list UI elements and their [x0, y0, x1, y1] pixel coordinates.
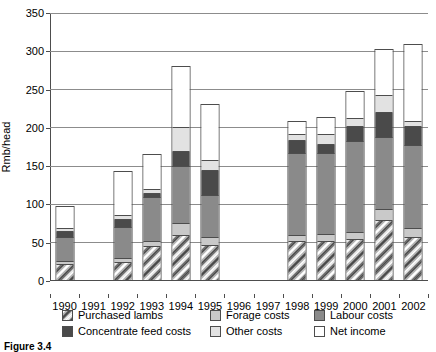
legend-label: Purchased lambs — [78, 310, 163, 321]
bar-segment — [376, 210, 393, 221]
bar-segment — [114, 263, 131, 280]
y-tick-mark — [46, 281, 50, 282]
bar-slot-1997 — [254, 13, 283, 281]
bar-segment — [289, 141, 306, 154]
bar-slot-1994 — [166, 13, 195, 281]
legend-swatch-other-icon — [210, 326, 221, 337]
chart-plot-area: 050100150200250300350 Rmb/head 199019911… — [50, 13, 428, 281]
bar-slot-2002 — [399, 13, 428, 281]
stacked-bar-1993[interactable] — [142, 154, 161, 281]
x-tick-mark — [137, 294, 138, 298]
legend-label: Concentrate feed costs — [78, 326, 191, 337]
bar-slot-1995 — [195, 13, 224, 281]
bar-slot-1999 — [312, 13, 341, 281]
stacked-bar-1990[interactable] — [55, 206, 74, 281]
stacked-bar-1998[interactable] — [288, 121, 307, 282]
y-tick-label: 50 — [32, 237, 44, 248]
x-tick-mark — [79, 294, 80, 298]
bar-segment — [376, 50, 393, 96]
bar-segment — [405, 45, 422, 122]
figure-container: 050100150200250300350 Rmb/head 199019911… — [0, 0, 436, 352]
bar-segment — [143, 198, 160, 242]
bar-segment — [172, 67, 189, 128]
bar-segment — [114, 228, 131, 259]
x-tick-mark — [283, 294, 284, 298]
bar-segment — [405, 238, 422, 280]
legend-item-netincome[interactable]: Net income — [314, 323, 412, 339]
x-tick-mark — [341, 294, 342, 298]
bar-segment — [289, 122, 306, 136]
bar-segment — [347, 127, 364, 142]
legend-swatch-labour-icon — [314, 310, 325, 321]
legend-item-forage[interactable]: Forage costs — [210, 307, 314, 323]
bar-segment — [114, 220, 131, 228]
bar-segment — [405, 229, 422, 238]
bar-segment — [143, 155, 160, 190]
bar-slot-1990 — [50, 13, 79, 281]
bar-segment — [172, 167, 189, 224]
bar-segment — [56, 238, 73, 262]
stacked-bar-1994[interactable] — [171, 66, 190, 281]
legend-item-labour[interactable]: Labour costs — [314, 307, 412, 323]
x-tick-mark — [370, 294, 371, 298]
bar-segment — [318, 145, 335, 153]
legend-item-concentrate[interactable]: Concentrate feed costs — [62, 323, 210, 339]
legend-label: Forage costs — [226, 310, 290, 321]
bar-segment — [405, 146, 422, 229]
bar-segment — [347, 240, 364, 280]
chart-legend: Purchased lambsForage costsLabour costsC… — [62, 307, 412, 339]
bar-segment — [376, 113, 393, 138]
bar-segment — [347, 142, 364, 232]
bar-segment — [318, 118, 335, 135]
stacked-bar-2002[interactable] — [404, 44, 423, 281]
bar-segment — [318, 154, 335, 235]
bar-slot-2001 — [370, 13, 399, 281]
x-tick-mark — [50, 294, 51, 298]
bar-slot-1998 — [283, 13, 312, 281]
legend-swatch-purchased-icon — [62, 310, 73, 321]
bar-segment — [376, 221, 393, 280]
x-tick-mark — [428, 294, 429, 298]
stacked-bar-2001[interactable] — [375, 49, 394, 281]
bar-segment — [318, 135, 335, 146]
legend-label: Other costs — [226, 326, 282, 337]
legend-label: Net income — [330, 326, 386, 337]
figure-caption: Figure 3.4 — [4, 341, 51, 352]
bar-segment — [318, 242, 335, 280]
stacked-bar-1992[interactable] — [113, 171, 132, 281]
y-tick-label: 200 — [26, 122, 44, 133]
x-tick-mark — [312, 294, 313, 298]
y-tick-label: 300 — [26, 46, 44, 57]
stacked-bar-1999[interactable] — [317, 117, 336, 281]
x-tick-mark — [108, 294, 109, 298]
stacked-bar-1995[interactable] — [200, 104, 219, 281]
bar-segment — [347, 119, 364, 127]
x-tick-mark — [195, 294, 196, 298]
y-tick-label: 0 — [38, 276, 44, 287]
bar-segment — [172, 236, 189, 280]
x-tick-mark — [224, 294, 225, 298]
bar-segment — [172, 224, 189, 236]
bar-slot-1996 — [224, 13, 253, 281]
legend-item-purchased[interactable]: Purchased lambs — [62, 307, 210, 323]
bar-segment — [289, 154, 306, 237]
legend-item-other[interactable]: Other costs — [210, 323, 314, 339]
x-tick-mark — [399, 294, 400, 298]
bar-segment — [347, 233, 364, 241]
bar-segment — [201, 105, 218, 161]
bar-segment — [318, 235, 335, 242]
x-tick-mark — [166, 294, 167, 298]
bar-segment — [201, 171, 218, 196]
bar-segment — [201, 161, 218, 170]
bar-segment — [172, 128, 189, 152]
bar-segment — [289, 242, 306, 280]
bar-segment — [347, 92, 364, 120]
y-tick-label: 100 — [26, 199, 44, 210]
y-axis-title: Rmb/head — [0, 122, 12, 173]
x-tick-mark — [254, 294, 255, 298]
stacked-bar-2000[interactable] — [346, 91, 365, 281]
bar-segment — [376, 138, 393, 210]
bar-segment — [376, 96, 393, 113]
bar-segment — [201, 238, 218, 246]
legend-label: Labour costs — [330, 310, 393, 321]
